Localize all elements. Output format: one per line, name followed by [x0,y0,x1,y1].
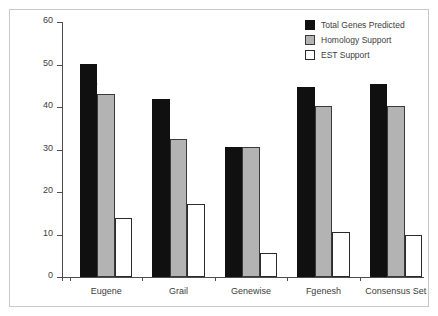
bar-homology[interactable] [170,139,188,277]
x-axis-category-label: Genewise [231,286,271,296]
legend-item-label: Total Genes Predicted [321,20,405,30]
x-axis-tick [62,277,63,281]
y-axis-tick: 10 [57,235,62,236]
x-axis-category-label: Fgenesh [306,286,341,296]
bar-group [370,22,423,277]
legend-item-label: EST Support [321,50,370,60]
x-axis-tick [287,277,288,281]
bar-est[interactable] [187,204,205,277]
y-axis-tick-label: 10 [43,228,53,238]
x-axis-line [62,277,424,278]
black-square-icon [305,20,315,30]
x-axis-tick [142,277,143,281]
y-axis-tick: 50 [57,65,62,66]
bar-total[interactable] [297,87,315,277]
x-axis-category-label: Grail [169,286,188,296]
bar-homology[interactable] [97,94,115,277]
bar-est[interactable] [115,218,133,277]
x-axis-category-label: Consensus Set [365,286,426,296]
bar-group [152,22,205,277]
legend-item[interactable]: Homology Support [305,35,405,45]
y-axis-tick-label: 20 [43,185,53,195]
bar-group [80,22,133,277]
x-axis-category-label: Eugene [91,286,122,296]
legend-item-label: Homology Support [321,35,391,45]
y-axis-tick: 40 [57,107,62,108]
y-axis-tick-label: 30 [43,143,53,153]
y-axis-tick: 60 [57,22,62,23]
plot-area: 0102030405060 EugeneGrailGenewiseFgenesh… [62,22,424,277]
bar-total[interactable] [370,84,388,277]
y-axis-tick-label: 50 [43,58,53,68]
chart-page: Number of Genes (Thousands) 010203040506… [0,0,438,316]
bar-est[interactable] [332,232,350,277]
bar-est[interactable] [405,235,423,278]
y-axis-tick-label: 0 [48,270,53,280]
x-axis-tick [70,277,71,281]
bar-total[interactable] [80,64,98,277]
bar-est[interactable] [260,253,278,277]
gray-square-icon [305,35,315,45]
bar-homology[interactable] [315,106,333,277]
x-axis-tick [215,277,216,281]
y-axis-tick: 30 [57,150,62,151]
bar-total[interactable] [225,147,243,277]
bar-group [225,22,278,277]
chart-legend: Total Genes PredictedHomology SupportEST… [305,20,405,60]
bar-homology[interactable] [242,147,260,277]
y-axis-tick-label: 60 [43,15,53,25]
y-axis-tick: 20 [57,192,62,193]
bar-group [297,22,350,277]
y-axis-line [62,22,63,277]
legend-item[interactable]: EST Support [305,50,405,60]
x-axis-tick [360,277,361,281]
y-axis-tick-label: 40 [43,100,53,110]
bar-total[interactable] [152,99,170,278]
bar-homology[interactable] [387,106,405,277]
legend-item[interactable]: Total Genes Predicted [305,20,405,30]
white-square-icon [305,50,315,60]
